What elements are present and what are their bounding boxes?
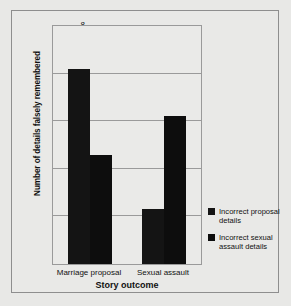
legend-label: Incorrect proposal details (219, 207, 280, 226)
plot-area (52, 25, 202, 265)
legend-swatch-icon (208, 208, 215, 215)
legend-label: Incorrect sexual assault details (219, 233, 280, 252)
legend-entry: Incorrect sexual assault details (208, 233, 280, 252)
x-axis-title: Story outcome (52, 280, 202, 290)
bar (90, 155, 112, 264)
chart-legend: Incorrect proposal detailsIncorrect sexu… (208, 207, 280, 259)
bar (164, 116, 186, 264)
legend-swatch-icon (208, 234, 215, 241)
x-axis-tick-label: Sexual assault (118, 268, 208, 277)
bar (68, 69, 90, 264)
figure-panel: Number of details falsely remembered 345… (11, 10, 279, 293)
bar (142, 209, 164, 264)
legend-entry: Incorrect proposal details (208, 207, 280, 226)
y-axis-title: Number of details falsely remembered (33, 39, 42, 209)
